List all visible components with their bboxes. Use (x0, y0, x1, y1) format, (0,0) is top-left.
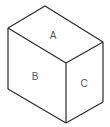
box-svg: A B C (0, 0, 110, 127)
face-label-top: A (50, 30, 57, 41)
box-diagram: A B C (0, 0, 110, 127)
face-label-left: B (32, 71, 39, 82)
face-label-right: C (80, 78, 87, 89)
